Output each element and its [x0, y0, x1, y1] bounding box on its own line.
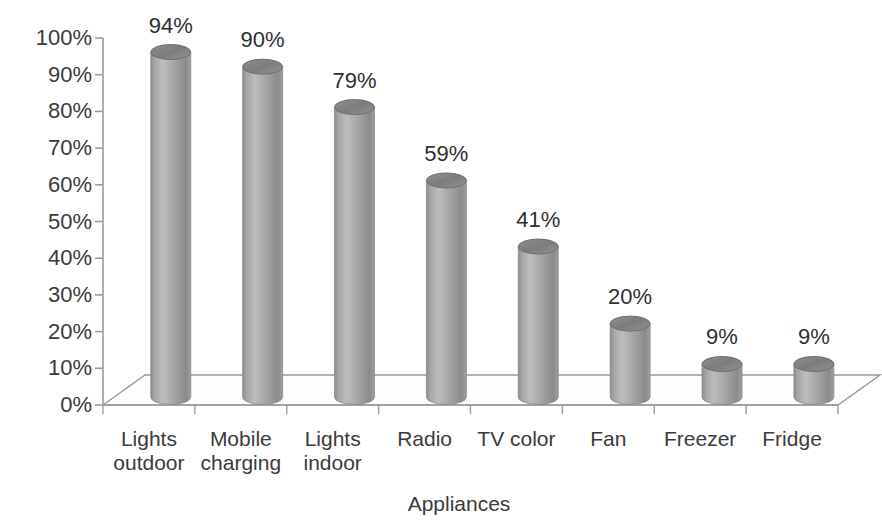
y-axis-tick-label: 90%	[48, 64, 92, 86]
bar	[794, 356, 834, 404]
bar-value-label: 79%	[310, 70, 400, 92]
bar	[151, 45, 191, 405]
y-axis-tick-labels: 100%90%80%70%60%50%40%30%20%10%0%	[0, 0, 92, 530]
bar-body	[243, 67, 283, 405]
bar-top-ellipse	[151, 45, 191, 60]
bar-value-label: 41%	[493, 209, 583, 231]
bar-chart: 100%90%80%70%60%50%40%30%20%10%0% Lights…	[0, 0, 882, 530]
bar	[426, 173, 466, 405]
bar-value-label: 9%	[677, 326, 767, 348]
y-axis-tick-label: 40%	[48, 247, 92, 269]
bar-value-label: 94%	[126, 15, 216, 37]
bar-body	[426, 180, 466, 404]
y-axis-tick-label: 100%	[36, 27, 92, 49]
bar-value-label: 20%	[585, 286, 675, 308]
bar-value-label: 9%	[769, 326, 859, 348]
y-axis-tick-label: 80%	[48, 100, 92, 122]
bar-top-ellipse	[335, 100, 375, 115]
y-axis-tick-label: 50%	[48, 211, 92, 233]
y-axis-tick-label: 70%	[48, 137, 92, 159]
y-axis	[95, 38, 103, 405]
bar-body	[610, 324, 650, 405]
bar-top-ellipse	[610, 316, 650, 331]
y-axis-tick-label: 60%	[48, 174, 92, 196]
bar-top-ellipse	[518, 239, 558, 254]
y-axis-tick-label: 10%	[48, 357, 92, 379]
x-axis-title: Appliances	[0, 492, 882, 516]
chart-floor	[103, 375, 880, 405]
y-axis-tick-label: 20%	[48, 321, 92, 343]
bar-top-ellipse	[243, 59, 283, 74]
bar	[702, 356, 742, 404]
bar	[335, 100, 375, 405]
y-axis-tick-label: 0%	[60, 394, 92, 416]
x-axis-category-label: Fridge	[732, 427, 852, 451]
bar	[243, 59, 283, 404]
bar-value-label: 59%	[401, 143, 491, 165]
bar-top-ellipse	[702, 356, 742, 371]
bar	[518, 239, 558, 404]
bar-body	[151, 52, 191, 404]
y-axis-tick-label: 30%	[48, 284, 92, 306]
bar-body	[335, 107, 375, 404]
bar-top-ellipse	[794, 356, 834, 371]
bar-top-ellipse	[426, 173, 466, 188]
x-axis	[103, 405, 838, 414]
bar	[610, 316, 650, 404]
bar-value-label: 90%	[218, 29, 308, 51]
bar-body	[518, 247, 558, 405]
